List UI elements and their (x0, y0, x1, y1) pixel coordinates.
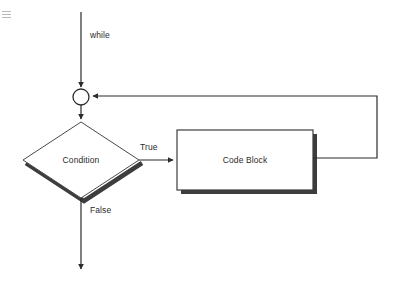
merge-node (73, 89, 89, 105)
condition-label: Condition (63, 156, 100, 165)
code-block-label: Code Block (223, 156, 267, 165)
entry-label-while: while (90, 31, 110, 40)
edge-label-false: False (90, 206, 111, 215)
edge-label-true: True (140, 143, 158, 152)
flowchart-graphics (0, 0, 398, 288)
flowchart-canvas: while Condition Code Block True False (0, 0, 398, 288)
